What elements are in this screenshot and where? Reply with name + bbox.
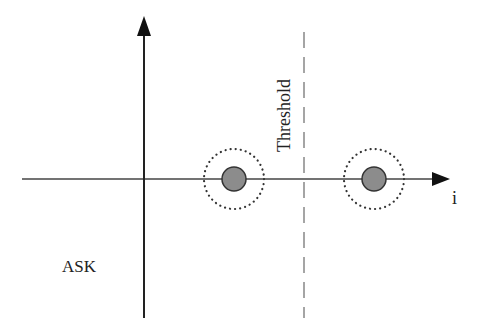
threshold-label: Threshold [274,79,294,152]
ask-constellation-diagram: i ASK Threshold [0,0,486,332]
symbol-point-1 [362,167,386,191]
x-axis-arrowhead-icon [432,172,450,186]
y-axis-arrowhead-icon [137,16,151,36]
diagram-title: ASK [62,257,97,276]
axis-label-i: i [452,188,457,208]
symbol-point-0 [222,167,246,191]
